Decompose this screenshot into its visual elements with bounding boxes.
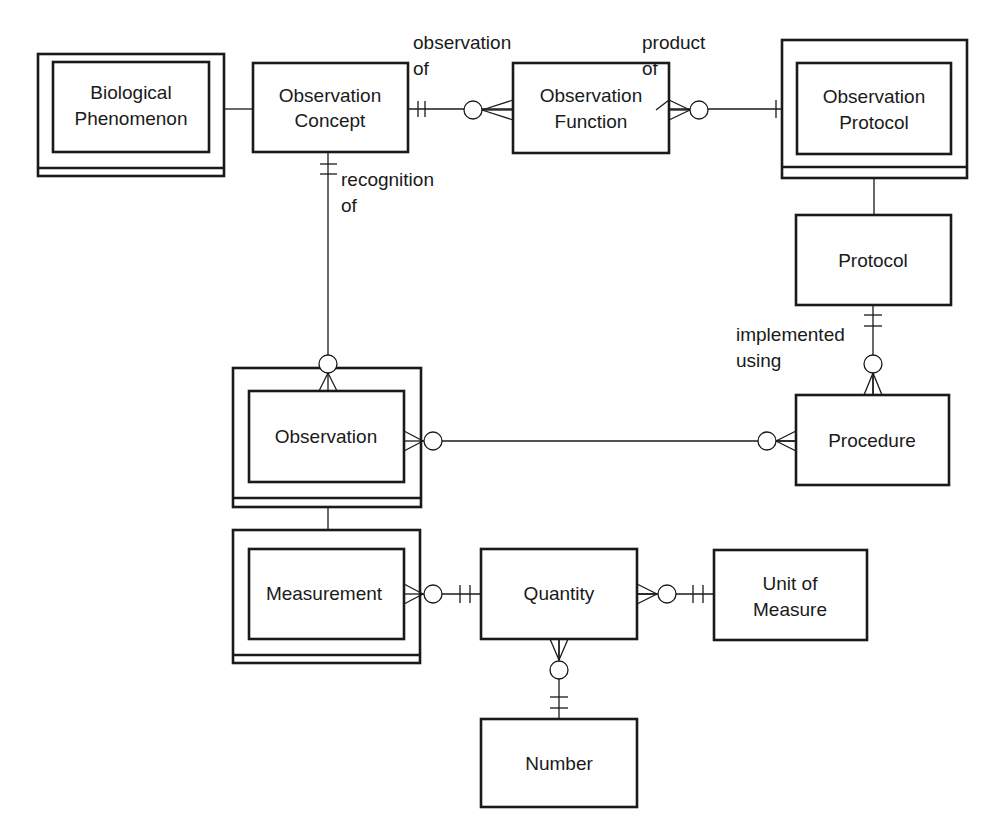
relationship-label-observation-of: observation of	[413, 32, 511, 79]
entity-observation-protocol[interactable]: Observation Protocol	[782, 40, 967, 178]
entity-label: Quantity	[524, 583, 595, 604]
entity-label: Biological	[90, 82, 171, 103]
entity-label: Protocol	[838, 250, 908, 271]
entity-observation[interactable]: Observation	[233, 368, 421, 507]
relationship-label: recognition	[341, 169, 434, 190]
relationship-label: product	[642, 32, 706, 53]
entity-protocol[interactable]: Protocol	[796, 215, 951, 305]
entity-quantity[interactable]: Quantity	[481, 549, 637, 639]
entity-label: Measurement	[266, 583, 383, 604]
relationship-label: of	[642, 58, 659, 79]
entity-label: Observation	[279, 85, 381, 106]
relationship-label-implemented-using: implemented using	[736, 324, 845, 371]
entity-label: Procedure	[828, 430, 916, 451]
entity-biological-phenomenon[interactable]: Biological Phenomenon	[38, 54, 224, 176]
zero-or-many-marker-icon	[637, 584, 676, 604]
entity-label: Measure	[753, 599, 827, 620]
entity-procedure[interactable]: Procedure	[796, 395, 949, 485]
relationship-label-product-of: product of	[642, 32, 706, 79]
entity-label: Function	[555, 111, 628, 132]
relationship-label: of	[413, 58, 430, 79]
entity-label: Phenomenon	[74, 108, 187, 129]
entity-observation-concept[interactable]: Observation Concept	[253, 63, 408, 152]
zero-or-many-marker-icon	[404, 584, 442, 604]
zero-or-many-marker-icon	[464, 100, 513, 120]
zero-or-many-marker-icon	[864, 355, 882, 395]
entity-label: Observation	[275, 426, 377, 447]
er-diagram: Biological Phenomenon Observation Concep…	[0, 0, 995, 836]
relationship-label: implemented	[736, 324, 845, 345]
relationship-label: using	[736, 350, 781, 371]
entity-label: Observation	[540, 85, 642, 106]
entity-label: Observation	[823, 86, 925, 107]
entity-label: Number	[525, 753, 593, 774]
entity-number[interactable]: Number	[481, 719, 637, 807]
relationship-label: observation	[413, 32, 511, 53]
entity-label: Protocol	[839, 112, 909, 133]
relationship-label: of	[341, 195, 358, 216]
entity-label: Concept	[295, 110, 366, 131]
relationship-label-recognition-of: recognition of	[341, 169, 434, 216]
entity-unit-of-measure[interactable]: Unit of Measure	[714, 550, 867, 640]
zero-or-many-marker-icon	[550, 639, 568, 679]
entity-measurement[interactable]: Measurement	[233, 530, 420, 663]
entity-label: Unit of	[763, 573, 819, 594]
zero-or-many-marker-icon	[758, 431, 796, 451]
zero-or-many-marker-icon	[404, 431, 442, 451]
